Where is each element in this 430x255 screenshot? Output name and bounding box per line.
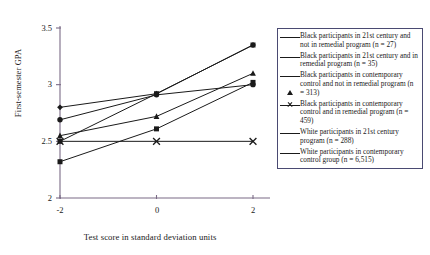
- legend-item[interactable]: Black participants in 21st century and i…: [280, 52, 419, 69]
- legend-marker-circle-icon: [280, 149, 300, 158]
- y-axis-ticks: 3.5 3 2.5 2: [22, 0, 52, 255]
- x-axis-title: Test score in standard deviation units: [30, 232, 270, 242]
- chart-series: [57, 42, 256, 110]
- legend-item[interactable]: Black participants in 21st century and n…: [280, 32, 419, 49]
- legend-item[interactable]: White participants in 21st century progr…: [280, 128, 419, 145]
- legend-item[interactable]: Black participants in contemporary contr…: [280, 71, 419, 97]
- y-tick-label: 2.5: [26, 137, 52, 146]
- chart-figure: 3.5 3 2.5 2 -2 0 2 First-semester GPA Te…: [0, 0, 430, 255]
- legend-marker-cross-icon: [280, 101, 300, 110]
- legend-marker-square-icon: [280, 129, 300, 138]
- legend-label: Black participants in contemporary contr…: [300, 100, 419, 126]
- x-tick-label: 0: [145, 206, 169, 215]
- legend-item[interactable]: Black participants in contemporary contr…: [280, 100, 419, 126]
- legend-label: Black participants in contemporary contr…: [300, 71, 419, 97]
- legend-marker-square-icon: [280, 53, 300, 62]
- legend-label: White participants in contemporary contr…: [300, 148, 419, 165]
- legend-label: Black participants in 21st century and i…: [300, 52, 419, 69]
- x-tick-label: 2: [241, 206, 265, 215]
- y-axis-title: First-semester GPA: [13, 13, 23, 153]
- legend-label: Black participants in 21st century and n…: [300, 32, 419, 49]
- y-tick-label: 2: [26, 194, 52, 203]
- y-tick-label: 3.5: [26, 24, 52, 33]
- y-tick-label: 3: [26, 80, 52, 89]
- chart-series: [57, 138, 257, 145]
- legend-item[interactable]: White participants in contemporary contr…: [280, 148, 419, 165]
- legend-marker-triangle-icon: [280, 72, 300, 81]
- legend-marker-diamond-icon: [280, 33, 300, 42]
- chart-legend: Black participants in 21st century and n…: [277, 28, 423, 169]
- legend-label: White participants in 21st century progr…: [300, 128, 419, 145]
- x-tick-label: -2: [48, 206, 72, 215]
